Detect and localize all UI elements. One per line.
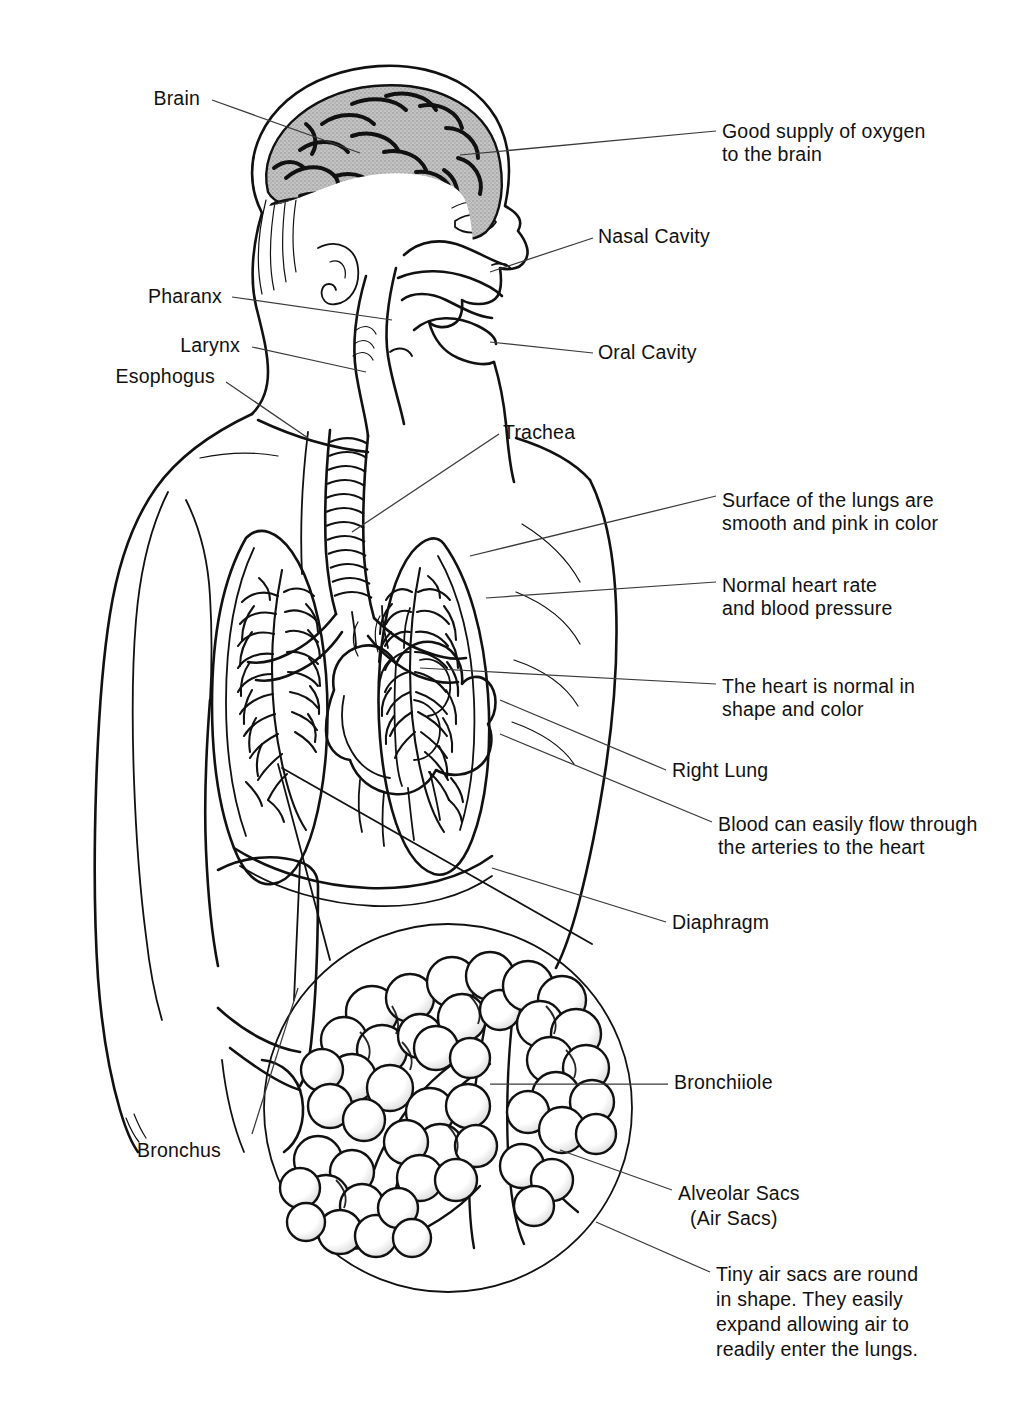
brain-stem-2 <box>368 282 378 332</box>
torso-center-line <box>294 862 300 1000</box>
label-right-lung: Right Lung <box>672 759 768 781</box>
ear-shape <box>318 244 358 304</box>
label-tiny-air-sacs-line1: Tiny air sacs are round <box>716 1263 918 1285</box>
label-bronchiiole: Bronchiiole <box>674 1071 773 1093</box>
rib-contour-3 <box>514 660 578 706</box>
leader-tiny-air-sacs <box>596 1222 710 1272</box>
oral-cavity-space <box>402 294 492 318</box>
label-blood-flow: Blood can easily flow through the arteri… <box>718 813 983 858</box>
leader-bronchus <box>252 988 298 1134</box>
anatomy-illustration: Brain Good supply of oxygen to the brain… <box>0 0 1022 1427</box>
alveolar-sacs-cluster <box>280 952 616 1257</box>
heart-aortic-arch <box>414 700 440 760</box>
label-trachea: Trachea <box>503 421 575 443</box>
left-shoulder-arm <box>95 414 252 1152</box>
clavicle-left <box>258 420 368 452</box>
lung-right-bronchial-texture <box>379 568 463 832</box>
label-oral-cavity: Oral Cavity <box>598 341 697 363</box>
lung-left-outline <box>212 531 328 884</box>
ear-inner-line <box>330 261 345 278</box>
label-lung-surface-line1: Surface of the lungs are <box>722 489 934 511</box>
label-heart-normal-line1: The heart is normal in <box>722 675 915 697</box>
alveoli-magnification <box>264 924 632 1292</box>
rib-contour-1 <box>522 524 580 582</box>
label-alveolar-sacs: Alveolar Sacs (Air Sacs) <box>678 1182 805 1229</box>
respiratory-system-diagram: Brain Good supply of oxygen to the brain… <box>0 0 1022 1427</box>
leg-line-left <box>222 1060 244 1152</box>
occiput-neck-line <box>252 213 268 414</box>
pelvis-line <box>218 1008 300 1052</box>
label-tiny-air-sacs-line4: readily enter the lungs. <box>716 1338 918 1360</box>
pharynx-passage <box>386 268 404 424</box>
trachea-left-wall <box>325 430 336 614</box>
diaphragm-lower-line <box>240 866 492 906</box>
cone-line-lower <box>282 768 592 944</box>
hair-strokes <box>259 196 296 294</box>
label-heart-rate-line2: and blood pressure <box>722 597 893 619</box>
clavicle-right <box>516 438 590 480</box>
label-heart-normal: The heart is normal in shape and color <box>722 675 921 720</box>
leader-nasal-cavity <box>490 238 593 272</box>
label-diaphragm: Diaphragm <box>672 911 769 933</box>
larynx-folds <box>353 327 376 360</box>
left-arm-inner <box>133 492 168 1020</box>
label-good-oxygen-line1: Good supply of oxygen <box>722 120 926 142</box>
nasal-cavity-floor <box>398 271 502 296</box>
lung-left-bronchial-texture <box>238 570 320 830</box>
leader-right-lung <box>500 700 666 770</box>
label-bronchus: Bronchus <box>137 1139 221 1161</box>
label-larynx: Larynx <box>180 334 240 356</box>
leader-diaphragm <box>492 868 666 922</box>
label-good-oxygen-line2: to the brain <box>722 143 822 165</box>
label-tiny-air-sacs-line3: expand allowing air to <box>716 1313 909 1335</box>
leader-oral-cavity <box>490 342 593 353</box>
label-alveolar-sacs-line1: Alveolar Sacs <box>678 1182 800 1204</box>
trachea-right-wall <box>363 436 374 618</box>
label-heart-normal-line2: shape and color <box>722 698 864 720</box>
left-armpit <box>186 500 212 700</box>
label-alveolar-sacs-line2: (Air Sacs) <box>690 1207 778 1229</box>
epiglottis <box>390 349 412 356</box>
leader-good-oxygen <box>460 131 716 155</box>
label-blood-flow-line2: the arteries to the heart <box>718 836 925 858</box>
label-nasal-cavity: Nasal Cavity <box>598 225 710 247</box>
label-heart-rate: Normal heart rate and blood pressure <box>722 574 893 619</box>
label-lung-surface: Surface of the lungs are smooth and pink… <box>722 489 939 534</box>
pharynx-back-wall <box>354 276 368 436</box>
left-torso-contour <box>205 700 218 966</box>
leader-heart-rate <box>486 582 716 598</box>
lungs-group <box>212 531 489 884</box>
rib-contour-2 <box>516 592 580 644</box>
label-brain: Brain <box>153 87 200 109</box>
label-blood-flow-line1: Blood can easily flow through <box>718 813 977 835</box>
heart-septum <box>395 664 403 786</box>
leader-lung-surface <box>470 496 716 556</box>
shoulder-crease <box>200 453 278 458</box>
brain-group <box>266 85 502 334</box>
label-esophogus: Esophogus <box>116 365 215 387</box>
label-tiny-air-sacs: Tiny air sacs are round in shape. They e… <box>716 1263 924 1360</box>
esophagus-tube <box>301 432 308 574</box>
label-tiny-air-sacs-line2: in shape. They easily <box>716 1288 903 1310</box>
label-pharanx: Pharanx <box>148 285 222 307</box>
nasal-cavity-passage <box>404 241 506 265</box>
right-torso-contour <box>556 480 617 968</box>
label-lung-surface-line2: smooth and pink in color <box>722 512 938 534</box>
label-good-oxygen: Good supply of oxygen to the brain <box>722 120 931 165</box>
label-heart-rate-line1: Normal heart rate <box>722 574 877 596</box>
leader-trachea <box>352 434 499 532</box>
